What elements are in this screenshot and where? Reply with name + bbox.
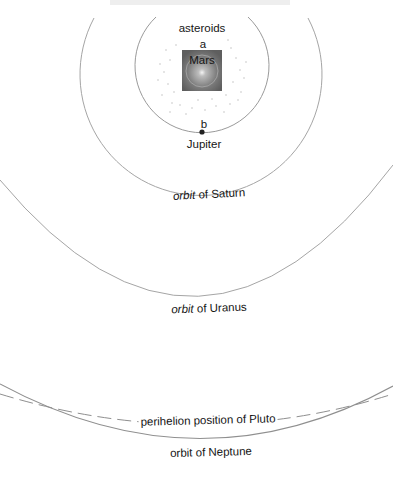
asteroids-label: asteroids — [179, 22, 226, 34]
mars-label: Mars — [189, 54, 215, 66]
top-strip — [110, 0, 290, 5]
saturn-orbit-label-prefix: orbit — [173, 189, 196, 202]
jupiter-label: Jupiter — [187, 138, 222, 150]
point-b-label: b — [201, 118, 207, 130]
neptune-orbit — [0, 384, 393, 439]
neptune-orbit-label: orbit of Neptune — [170, 445, 252, 459]
uranus-orbit — [0, 165, 393, 296]
jupiter-dot — [199, 129, 204, 134]
uranus-orbit-label-prefix: orbit — [171, 303, 194, 316]
point-a-label: a — [200, 38, 206, 50]
uranus-orbit-label-suffix: of Uranus — [193, 301, 246, 315]
